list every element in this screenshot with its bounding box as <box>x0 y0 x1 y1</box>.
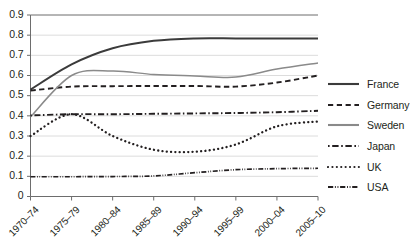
series-line-japan <box>31 111 319 116</box>
y-tick-label: 0.1 <box>0 169 24 181</box>
series-line-france <box>31 38 319 89</box>
series-line-usa <box>31 168 319 176</box>
legend-item-usa[interactable]: USA <box>327 177 413 198</box>
legend-label-usa: USA <box>367 181 388 193</box>
y-tick-marks <box>27 15 31 197</box>
series-line-uk <box>31 114 319 152</box>
y-tick-label: 0.5 <box>0 88 24 100</box>
legend-item-uk[interactable]: UK <box>327 156 413 177</box>
legend-swatch-usa <box>327 181 360 193</box>
y-tick-label: 0.8 <box>0 28 24 40</box>
axes <box>31 15 319 197</box>
legend-label-uk: UK <box>367 161 381 173</box>
legend-swatch-uk <box>327 161 360 173</box>
legend-swatch-france <box>327 78 360 90</box>
legend-swatch-sweden <box>327 119 360 131</box>
legend-item-japan[interactable]: Japan <box>327 136 413 157</box>
legend-label-japan: Japan <box>367 140 395 152</box>
legend-item-germany[interactable]: Germany <box>327 95 413 116</box>
y-tick-label: 0.2 <box>0 149 24 161</box>
chart-legend: France Germany Sweden Japan UK <box>327 74 413 198</box>
legend-item-sweden[interactable]: Sweden <box>327 115 413 136</box>
legend-label-sweden: Sweden <box>367 119 404 131</box>
legend-label-france: France <box>367 78 399 90</box>
y-tick-label: 0.9 <box>0 8 24 20</box>
line-chart: 00.10.20.30.40.50.60.70.80.9 1970–741975… <box>0 0 413 247</box>
legend-swatch-japan <box>327 140 360 152</box>
y-tick-label: 0 <box>0 189 24 201</box>
y-tick-label: 0.6 <box>0 68 24 80</box>
y-tick-label: 0.3 <box>0 129 24 141</box>
series-line-sweden <box>31 63 319 117</box>
y-tick-label: 0.7 <box>0 48 24 60</box>
legend-swatch-germany <box>327 99 360 111</box>
legend-item-france[interactable]: France <box>327 74 413 95</box>
legend-label-germany: Germany <box>367 99 409 111</box>
x-tick-marks <box>31 197 319 201</box>
series-line-germany <box>31 76 319 91</box>
y-tick-label: 0.4 <box>0 109 24 121</box>
